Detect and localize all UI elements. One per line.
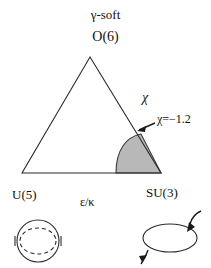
vertex-label-o6: O(6) (0, 30, 211, 44)
su3-shape-icon (139, 211, 201, 264)
vertex-label-u5: U(5) (12, 188, 37, 201)
u5-shape-icon (15, 220, 61, 262)
rotation-arrow-top (187, 211, 201, 232)
vertex-label-su3: SU(3) (146, 186, 178, 199)
chi-value-annotation: χ=−1.2 (157, 113, 191, 125)
rotation-arrow-bottom (139, 250, 148, 264)
shaded-region (116, 134, 161, 173)
chi-axis-label: χ (142, 91, 148, 105)
gamma-soft-label: γ-soft (0, 8, 211, 21)
epsilon-kappa-axis-label: ε/κ (80, 196, 94, 208)
chi-pointer-arrow (137, 123, 155, 132)
